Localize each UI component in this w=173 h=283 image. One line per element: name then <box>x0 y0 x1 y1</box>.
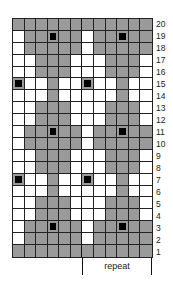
chart-cell <box>25 126 37 138</box>
black-square-icon <box>50 128 57 135</box>
chart-cell <box>129 221 141 233</box>
chart-cell <box>36 221 48 233</box>
chart-cell <box>71 43 83 55</box>
chart-cell <box>117 138 129 150</box>
chart-cell <box>82 114 94 126</box>
chart-cell <box>25 55 37 67</box>
chart-cell <box>82 162 94 174</box>
chart-cell <box>25 150 37 162</box>
row-number-labels: 2019181716151413121110987654321 <box>156 18 173 258</box>
chart-cell <box>106 19 118 31</box>
chart-cell <box>117 78 129 90</box>
chart-cell <box>13 174 25 186</box>
chart-cell <box>25 19 37 31</box>
chart-cell <box>36 174 48 186</box>
chart-cell <box>59 221 71 233</box>
chart-cell <box>82 31 94 43</box>
chart-cell <box>140 126 152 138</box>
black-square-icon <box>15 176 22 183</box>
chart-cell <box>36 67 48 79</box>
chart-cell <box>25 162 37 174</box>
repeat-bracket: repeat <box>82 258 152 275</box>
chart-cell <box>59 31 71 43</box>
chart-cell <box>106 43 118 55</box>
knitting-chart-grid <box>12 18 153 258</box>
chart-cell <box>59 43 71 55</box>
chart-cell <box>36 102 48 114</box>
chart-cell <box>140 197 152 209</box>
chart-cell <box>25 174 37 186</box>
chart-cell <box>71 90 83 102</box>
chart-cell <box>59 138 71 150</box>
chart-cell <box>25 67 37 79</box>
row-number: 2 <box>156 234 173 246</box>
chart-cell <box>36 55 48 67</box>
chart-cell <box>94 162 106 174</box>
chart-cell <box>82 90 94 102</box>
chart-cell <box>13 90 25 102</box>
chart-cell <box>106 67 118 79</box>
row-number: 3 <box>156 222 173 234</box>
chart-cell <box>71 150 83 162</box>
chart-cell <box>117 31 129 43</box>
row-number: 14 <box>156 90 173 102</box>
chart-cell <box>82 102 94 114</box>
chart-cell <box>25 221 37 233</box>
row-number: 20 <box>156 18 173 30</box>
chart-cell <box>106 114 118 126</box>
chart-cell <box>129 114 141 126</box>
chart-cell <box>36 90 48 102</box>
chart-cell <box>106 186 118 198</box>
chart-cell <box>140 186 152 198</box>
chart-cell <box>106 126 118 138</box>
chart-cell <box>106 78 118 90</box>
chart-cell <box>36 78 48 90</box>
chart-cell <box>13 126 25 138</box>
row-number: 11 <box>156 126 173 138</box>
chart-cell <box>59 233 71 245</box>
chart-cell <box>94 209 106 221</box>
row-number: 15 <box>156 78 173 90</box>
black-square-icon <box>84 80 91 87</box>
chart-cell <box>13 43 25 55</box>
chart-cell <box>129 31 141 43</box>
chart-cell <box>140 150 152 162</box>
chart-cell <box>129 102 141 114</box>
chart-cell <box>59 126 71 138</box>
black-square-icon <box>15 80 22 87</box>
row-number: 13 <box>156 102 173 114</box>
chart-cell <box>13 186 25 198</box>
repeat-label: repeat <box>83 261 151 271</box>
chart-cell <box>13 221 25 233</box>
chart-cell <box>117 90 129 102</box>
chart-cell <box>140 43 152 55</box>
chart-cell <box>94 55 106 67</box>
chart-cell <box>117 55 129 67</box>
chart-cell <box>82 233 94 245</box>
chart-cell <box>59 55 71 67</box>
chart-cell <box>48 31 60 43</box>
chart-cell <box>140 19 152 31</box>
chart-cell <box>117 209 129 221</box>
chart-cell <box>117 221 129 233</box>
chart-cell <box>140 245 152 257</box>
chart-cell <box>94 150 106 162</box>
row-number: 6 <box>156 186 173 198</box>
row-number: 18 <box>156 42 173 54</box>
chart-cell <box>106 31 118 43</box>
chart-cell <box>129 78 141 90</box>
chart-cell <box>71 114 83 126</box>
chart-cell <box>59 102 71 114</box>
chart-cell <box>59 78 71 90</box>
chart-cell <box>129 90 141 102</box>
chart-cell <box>48 138 60 150</box>
chart-cell <box>71 102 83 114</box>
chart-cell <box>48 114 60 126</box>
black-square-icon <box>50 33 57 40</box>
chart-cell <box>140 162 152 174</box>
chart-cell <box>36 31 48 43</box>
chart-cell <box>129 209 141 221</box>
row-number: 12 <box>156 114 173 126</box>
chart-cell <box>94 43 106 55</box>
chart-cell <box>106 197 118 209</box>
